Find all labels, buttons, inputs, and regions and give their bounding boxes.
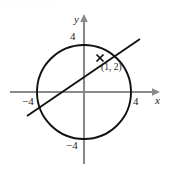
y-tick-label-neg4: −4: [66, 140, 78, 151]
graph-figure: · · · · · · · · · · · · · · y x 4 −4 4 −…: [0, 0, 170, 171]
y-axis-arrow: [80, 14, 88, 22]
point-marker-x: [97, 55, 104, 62]
x-tick-label-neg4: −4: [22, 96, 34, 107]
x-tick-label-4: 4: [133, 96, 139, 107]
y-axis-label: y: [74, 14, 79, 25]
coordinate-plot: [0, 0, 170, 171]
x-axis-label: x: [155, 95, 160, 106]
point-coordinate-label: (1, 2): [101, 63, 122, 73]
y-tick-label-4: 4: [70, 31, 76, 42]
